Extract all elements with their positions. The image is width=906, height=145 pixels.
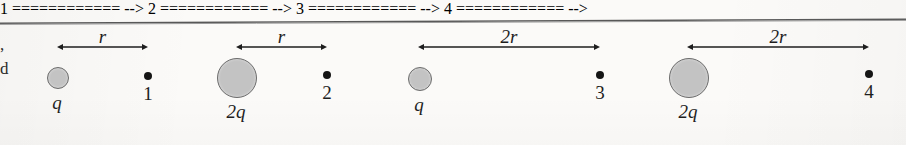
field-point-dot-3: [596, 71, 604, 79]
field-point-dot-2: [323, 71, 331, 79]
charge-circle-3: [408, 67, 432, 91]
charge-label-4: 2q: [658, 102, 718, 121]
charge-label-2: 2q: [206, 102, 266, 121]
physics-figure: , d 1 ============ --> r q 1 2 =========…: [0, 0, 906, 145]
charge-circle-1: [47, 67, 69, 89]
field-point-label-4: 4: [849, 82, 889, 101]
margin-text-fragment-bottom: d: [0, 60, 9, 77]
charge-circle-2: [217, 58, 257, 98]
distance-arrow-4: [679, 39, 877, 55]
distance-arrow-1: [49, 39, 156, 55]
distance-arrow-3: [410, 39, 608, 55]
margin-text-fragment-top: ,: [0, 36, 4, 53]
field-point-label-1: 1: [128, 84, 168, 103]
field-point-label-2: 2: [307, 83, 347, 102]
field-point-label-3: 3: [580, 83, 620, 102]
charge-label-1: q: [27, 93, 87, 112]
field-point-dot-1: [144, 72, 152, 80]
charge-label-3: q: [389, 95, 449, 114]
charge-circle-4: [669, 58, 709, 98]
field-point-dot-4: [865, 70, 873, 78]
distance-arrow-2: [228, 39, 335, 55]
